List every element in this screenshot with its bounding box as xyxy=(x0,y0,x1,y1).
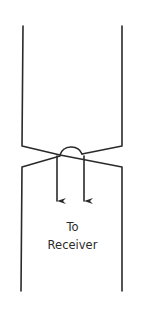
label-to: To xyxy=(0,222,145,234)
label-receiver: Receiver xyxy=(0,240,145,252)
diagram-canvas xyxy=(0,0,145,309)
coupling-hump xyxy=(60,147,82,155)
upper-guide-right-wall xyxy=(82,26,122,154)
